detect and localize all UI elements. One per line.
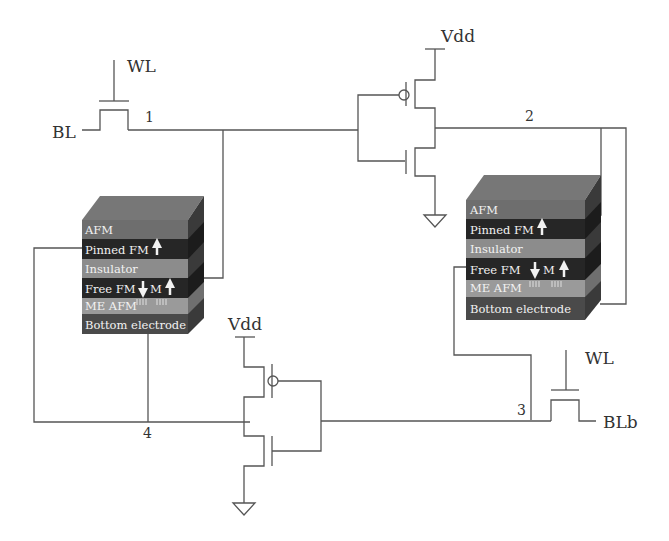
layer-insulator-right: Insulator (470, 242, 523, 256)
wl-left-label: WL (127, 56, 156, 76)
m-label-left: M (150, 282, 162, 296)
layer-me-afm-left: ME AFM (85, 299, 137, 313)
mtj-stack-right: AFM Pinned FM Insulator Free FM M ME AFM… (466, 175, 601, 320)
layer-insulator-left: Insulator (85, 262, 138, 276)
layer-bottom-electrode-right: Bottom electrode (470, 302, 571, 316)
bl-label: BL (52, 122, 76, 142)
layer-afm-left: AFM (84, 223, 113, 237)
layer-me-afm-right: ME AFM (470, 281, 522, 295)
node-2-to-right-bottom (600, 128, 626, 304)
layer-pinned-fm-right: Pinned FM (470, 223, 534, 237)
inverter-top (358, 49, 446, 227)
inverter-bottom (233, 337, 321, 515)
blb-label: BLb (603, 412, 638, 432)
ground-icon-bottom (233, 503, 255, 515)
access-transistor-left (82, 60, 129, 130)
layer-free-fm-right: Free FM (470, 263, 521, 277)
ground-icon-top (424, 215, 446, 227)
vdd-top-label: Vdd (440, 26, 475, 46)
node-2-label: 2 (525, 108, 534, 124)
layer-bottom-electrode-left: Bottom electrode (85, 318, 186, 332)
layer-free-fm-left: Free FM (85, 282, 136, 296)
m-label-right: M (543, 263, 555, 277)
mtj-stack-left: AFM Pinned FM Insulator Free FM M ME AFM… (82, 196, 204, 334)
circuit-diagram: WL BL 1 Vdd 2 AFM Pinned FM (0, 0, 669, 541)
node-3-label: 3 (517, 402, 526, 418)
node-4-label: 4 (143, 425, 152, 441)
node-1-label: 1 (145, 109, 154, 125)
layer-afm-right: AFM (469, 203, 498, 217)
vdd-bottom-label: Vdd (227, 314, 262, 334)
layer-pinned-fm-left: Pinned FM (85, 243, 149, 257)
wl-right-label: WL (585, 348, 614, 368)
